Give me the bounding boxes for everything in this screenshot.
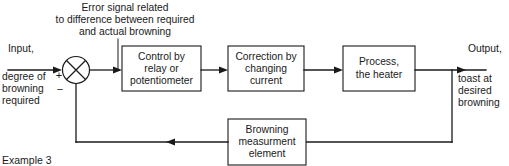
figure-canvas: Error signal related to difference betwe… <box>0 0 509 166</box>
annotation-line-3: and actual browning <box>79 26 171 37</box>
block-measurement-line-3: element <box>249 148 286 159</box>
output-label-line-2: toast at <box>458 73 492 84</box>
block-measurement-line-1: Browning <box>246 124 289 135</box>
feedback-arrowhead <box>166 138 175 145</box>
block-correction-line-3: current <box>250 75 282 86</box>
annotation-line-1: Error signal related <box>82 2 169 13</box>
block-correction-line-1: Correction by <box>235 51 297 62</box>
output-label-line-3: desired <box>458 85 492 96</box>
block-process-line-2: the heater <box>356 69 403 80</box>
summing-junction-minus-sign: − <box>57 83 63 95</box>
input-label-line-3: browning <box>2 83 44 94</box>
block-control-line-2: relay or <box>144 63 179 74</box>
output-label-line-1: Output, <box>468 43 502 54</box>
block-control-line-1: Control by <box>138 51 186 62</box>
summing-junction-plus-sign: + <box>56 69 62 81</box>
arrowhead-correction-to-process <box>334 66 343 73</box>
annotation-line-2: to difference between required <box>56 14 195 25</box>
block-process-line-1: Process, <box>359 56 399 67</box>
output-label-line-4: browning <box>458 97 500 108</box>
block-control-line-3: potentiometer <box>130 75 194 86</box>
block-diagram: Error signal related to difference betwe… <box>0 0 509 166</box>
input-label-line-2: degree of <box>2 71 46 82</box>
input-label-line-4: required <box>2 95 40 106</box>
figure-caption: Example 3 <box>2 154 52 166</box>
block-measurement-line-2: measurment <box>238 136 295 147</box>
block-correction-line-2: changing <box>245 63 287 74</box>
arrowhead-control-to-correction <box>219 66 228 73</box>
input-label-line-1: Input, <box>8 43 34 54</box>
